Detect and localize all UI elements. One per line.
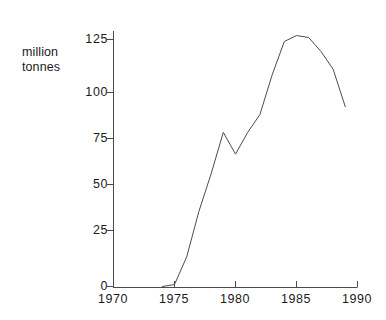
y-axis-ticks bbox=[107, 40, 113, 287]
x-axis-ticks bbox=[114, 281, 358, 287]
line-chart: milliontonnes 125 100 75 50 25 0 1970 19… bbox=[0, 0, 386, 320]
plot-area bbox=[0, 0, 386, 320]
data-series-line bbox=[162, 36, 345, 287]
